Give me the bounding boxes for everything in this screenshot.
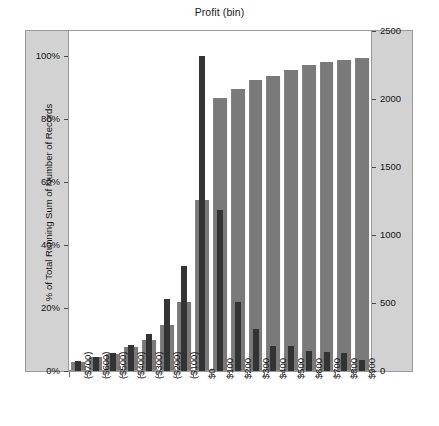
bar-running-sum-percent[interactable] bbox=[253, 329, 259, 371]
x-tick-mark bbox=[122, 372, 123, 377]
x-tick-mark bbox=[211, 372, 212, 377]
right-axis-band: Number of Records 05001000150020002500 bbox=[371, 30, 413, 372]
bar-number-of-records[interactable] bbox=[320, 62, 334, 371]
chart-bin[interactable] bbox=[353, 31, 371, 371]
x-tick-mark bbox=[105, 372, 106, 377]
right-tick-label: 2000 bbox=[380, 94, 401, 104]
chart-bin[interactable] bbox=[158, 31, 176, 371]
left-tick-label: 20% bbox=[41, 303, 60, 313]
bar-number-of-records[interactable] bbox=[302, 65, 316, 371]
left-tick-mark bbox=[64, 245, 68, 246]
chart-bin[interactable] bbox=[282, 31, 300, 371]
bar-running-sum-percent[interactable] bbox=[324, 352, 330, 371]
right-tick-mark bbox=[372, 235, 376, 236]
chart-bin[interactable] bbox=[105, 31, 123, 371]
bar-running-sum-percent[interactable] bbox=[341, 353, 347, 371]
left-tick-mark bbox=[64, 308, 68, 309]
chart-bin[interactable] bbox=[247, 31, 265, 371]
chart-bin[interactable] bbox=[335, 31, 353, 371]
bar-running-sum-percent[interactable] bbox=[270, 346, 276, 371]
x-tick-mark bbox=[318, 372, 319, 377]
chart-bin[interactable] bbox=[140, 31, 158, 371]
chart-bin[interactable] bbox=[69, 31, 87, 371]
left-axis-band: % of Total Running Sum of Number of Reco… bbox=[25, 30, 69, 372]
x-tick-mark bbox=[264, 372, 265, 377]
chart-root: Profit (bin) % of Total Running Sum of N… bbox=[0, 0, 439, 426]
chart-bin[interactable] bbox=[318, 31, 336, 371]
bar-running-sum-percent[interactable] bbox=[93, 357, 99, 371]
bar-number-of-records[interactable] bbox=[337, 60, 351, 371]
bar-running-sum-percent[interactable] bbox=[181, 266, 187, 371]
left-tick-label: 80% bbox=[41, 114, 60, 124]
x-tick-mark bbox=[140, 372, 141, 377]
bar-number-of-records[interactable] bbox=[249, 80, 263, 371]
chart-bin[interactable] bbox=[300, 31, 318, 371]
x-tick-mark bbox=[300, 372, 301, 377]
right-tick-mark bbox=[372, 99, 376, 100]
right-tick-mark bbox=[372, 167, 376, 168]
bar-running-sum-percent[interactable] bbox=[75, 361, 81, 371]
chart-bin[interactable] bbox=[193, 31, 211, 371]
right-tick-mark bbox=[372, 303, 376, 304]
right-tick-mark bbox=[372, 31, 376, 32]
left-tick-mark bbox=[64, 182, 68, 183]
chart-bin[interactable] bbox=[229, 31, 247, 371]
bar-number-of-records[interactable] bbox=[355, 58, 369, 371]
chart-bin[interactable] bbox=[211, 31, 229, 371]
x-tick-mark bbox=[158, 372, 159, 377]
x-tick-mark bbox=[371, 372, 372, 377]
bar-running-sum-percent[interactable] bbox=[164, 299, 170, 371]
right-tick-label: 1000 bbox=[380, 230, 401, 240]
bar-running-sum-percent[interactable] bbox=[199, 56, 205, 371]
bar-running-sum-percent[interactable] bbox=[306, 351, 312, 371]
right-tick-label: 500 bbox=[380, 298, 396, 308]
left-tick-label: 100% bbox=[36, 51, 60, 61]
x-tick-mark bbox=[335, 372, 336, 377]
bar-running-sum-percent[interactable] bbox=[288, 346, 294, 371]
x-tick-mark bbox=[229, 372, 230, 377]
bar-number-of-records[interactable] bbox=[266, 76, 280, 371]
x-tick-mark bbox=[87, 372, 88, 377]
chart-bin[interactable] bbox=[176, 31, 194, 371]
left-axis-title: % of Total Running Sum of Number of Reco… bbox=[43, 63, 54, 343]
bar-running-sum-percent[interactable] bbox=[146, 334, 152, 371]
bar-running-sum-percent[interactable] bbox=[359, 360, 365, 371]
left-tick-mark bbox=[64, 119, 68, 120]
left-tick-mark bbox=[64, 371, 68, 372]
bar-running-sum-percent[interactable] bbox=[110, 353, 116, 371]
chart-bin[interactable] bbox=[264, 31, 282, 371]
right-tick-label: 2500 bbox=[380, 26, 401, 36]
x-tick-mark bbox=[247, 372, 248, 377]
left-tick-label: 0% bbox=[46, 366, 60, 376]
x-tick-mark bbox=[193, 372, 194, 377]
x-tick-mark bbox=[176, 372, 177, 377]
bar-running-sum-percent[interactable] bbox=[235, 302, 241, 371]
right-tick-label: 0 bbox=[380, 366, 385, 376]
chart-title: Profit (bin) bbox=[0, 6, 439, 18]
x-tick-mark bbox=[353, 372, 354, 377]
x-tick-mark bbox=[69, 372, 70, 377]
right-tick-label: 1500 bbox=[380, 162, 401, 172]
left-tick-mark bbox=[64, 56, 68, 57]
bar-running-sum-percent[interactable] bbox=[128, 345, 134, 371]
bar-number-of-records[interactable] bbox=[284, 70, 298, 371]
left-tick-label: 40% bbox=[41, 240, 60, 250]
chart-bin[interactable] bbox=[87, 31, 105, 371]
bar-running-sum-percent[interactable] bbox=[217, 210, 223, 371]
left-tick-label: 60% bbox=[41, 177, 60, 187]
x-tick-mark bbox=[282, 372, 283, 377]
chart-bin[interactable] bbox=[122, 31, 140, 371]
plot-area bbox=[69, 31, 371, 371]
